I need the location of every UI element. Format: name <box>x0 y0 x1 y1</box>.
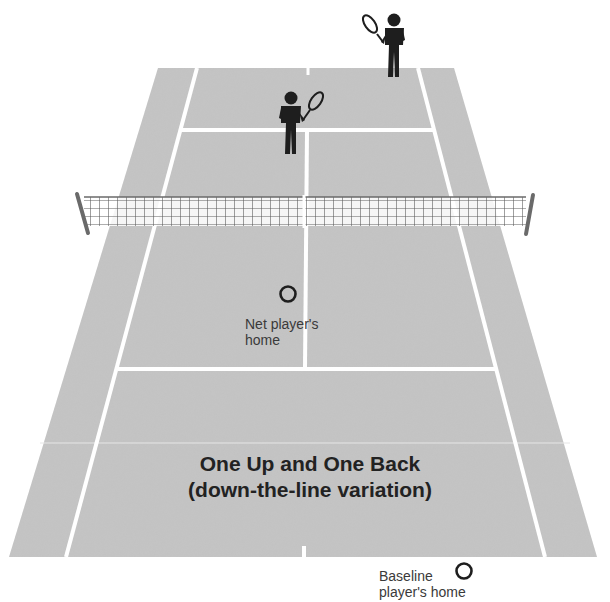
net-player-home-label: Net player's home <box>245 316 318 348</box>
baseline-player-home-label-line2: player's home <box>379 584 466 600</box>
net-player-home-label-line1: Net player's <box>245 316 318 332</box>
court-svg <box>0 0 610 602</box>
net-player-home-label-line2: home <box>245 332 318 348</box>
baseline-player-home-label: Baseline player's home <box>379 568 466 600</box>
right-net-post <box>526 195 533 234</box>
diagram-title: One Up and One Back (down-the-line varia… <box>130 451 490 503</box>
tennis-court-diagram: Net player's home Baseline player's home… <box>0 0 610 602</box>
diagram-title-line1: One Up and One Back <box>130 451 490 477</box>
tennis-player-icon <box>360 13 405 77</box>
baseline-player-home-label-line1: Baseline <box>379 568 466 584</box>
diagram-title-line2: (down-the-line variation) <box>130 477 490 503</box>
